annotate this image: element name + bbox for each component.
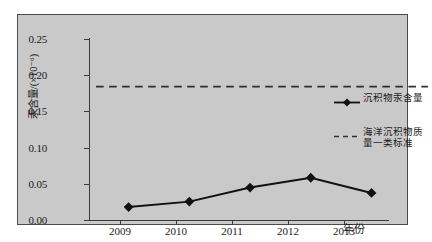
data-point-2013 <box>367 188 377 198</box>
chart-frame: 0.25 0.20 0.15 0.10 0.05 0.00 2009 2010 … <box>17 14 408 225</box>
data-point-2012 <box>306 173 316 183</box>
legend-entry-sediment-mercury: 沉积物汞含量 <box>334 93 426 105</box>
data-point-2011 <box>245 183 255 193</box>
legend-solid-line-icon <box>334 98 360 107</box>
legend-label-marine-standard: 海洋沉积物质 量一类标准 <box>363 127 426 150</box>
legend-label-sediment-mercury: 沉积物汞含量 <box>363 93 426 105</box>
chart-legend: 沉积物汞含量 海洋沉积物质 量一类标准 <box>334 93 426 172</box>
data-point-2010 <box>184 197 194 207</box>
data-point-2009 <box>124 202 134 212</box>
legend-entry-marine-standard: 海洋沉积物质 量一类标准 <box>334 127 426 150</box>
legend-dashed-line-icon <box>334 132 360 141</box>
